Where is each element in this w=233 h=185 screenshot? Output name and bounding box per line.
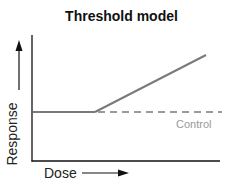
y-axis-label: Response [4, 94, 20, 174]
response-line [95, 55, 206, 112]
control-label: Control [176, 118, 211, 130]
x-axis-arrow-icon [82, 170, 129, 177]
x-axis-label: Dose [44, 165, 77, 181]
plot-area [0, 0, 233, 185]
y-axis-arrow-icon [16, 40, 23, 90]
